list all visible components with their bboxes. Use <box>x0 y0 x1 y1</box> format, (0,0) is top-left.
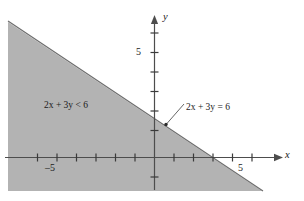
inequality-graph-figure: 5 –5 5 y x 2x + 3y < 6 2x + 3y = 6 <box>0 0 304 201</box>
x-axis-tick-label-negative-5: –5 <box>45 163 55 173</box>
inequality-annotation-label: 2x + 3y < 6 <box>44 101 88 111</box>
x-axis-name-label: x <box>285 150 290 161</box>
x-axis-tick-label-5: 5 <box>238 163 243 173</box>
equation-leader-dot <box>164 123 167 126</box>
y-axis-tick-label-5: 5 <box>136 47 141 57</box>
equation-leader-line <box>167 104 185 124</box>
y-axis-name-label: y <box>163 12 168 23</box>
equation-annotation-label: 2x + 3y = 6 <box>186 103 230 113</box>
y-axis-arrowhead <box>151 15 158 24</box>
x-axis-arrowhead <box>274 154 283 161</box>
